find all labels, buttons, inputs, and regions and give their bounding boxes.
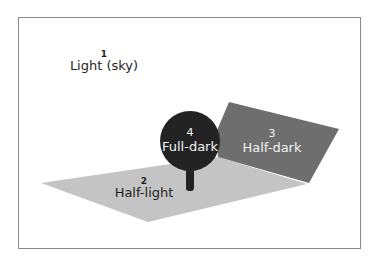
zone-half-light-label: 2 Half-light	[104, 176, 184, 201]
zone-name: Half-dark	[232, 141, 312, 156]
zone-name: Full-dark	[150, 140, 230, 155]
zone-number: 4	[150, 127, 230, 140]
zone-full-dark-label: 4 Full-dark	[150, 127, 230, 155]
zone-light-sky-label: 1 Light (sky)	[64, 49, 144, 74]
zone-name: Light (sky)	[64, 59, 144, 74]
zone-half-dark-label: 3 Half-dark	[232, 128, 312, 156]
zone-name: Half-light	[104, 186, 184, 201]
zone-number: 3	[232, 128, 312, 141]
